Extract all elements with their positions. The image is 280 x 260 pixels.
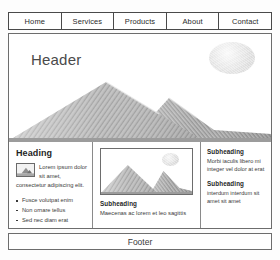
nav-item-contact[interactable]: Contact [219, 13, 271, 29]
list-item: Fusce volutpat enim [16, 196, 87, 206]
right-column: Subheading Morbi iaculis libero mi integ… [201, 142, 271, 229]
hero-banner: Header [9, 34, 271, 142]
content-frame: Header [8, 33, 272, 229]
mountain-range-illustration [9, 68, 271, 142]
card-subheading: Subheading [100, 200, 193, 207]
mountain-illustration [101, 162, 192, 194]
page-title: Header [31, 51, 81, 68]
three-column-layout: Heading Lorem ipsum dolor sit amet, cons… [9, 142, 271, 229]
image-thumbnail-icon [16, 163, 35, 177]
left-column: Heading Lorem ipsum dolor sit amet, cons… [9, 142, 93, 229]
page-footer: Footer [8, 233, 272, 250]
nav-item-services[interactable]: Services [62, 13, 115, 29]
list-item: Non ornare tellus [16, 206, 87, 216]
nav-item-home[interactable]: Home [9, 13, 62, 29]
feature-list: Fusce volutpat enim Non ornare tellus Se… [16, 196, 87, 225]
footer-label: Footer [128, 237, 153, 247]
right-text-1: Morbi iaculis libero mi integer vel dolo… [207, 157, 266, 174]
feature-card-image [100, 148, 193, 195]
right-subheading-1: Subheading [207, 148, 266, 155]
middle-column: Subheading Maecenas ac lorem et leo sagi… [93, 142, 201, 229]
main-navigation: Home Services Products About Contact [8, 12, 272, 30]
nav-item-about[interactable]: About [167, 13, 220, 29]
list-item: Sed nec diam erat [16, 216, 87, 226]
page-root: Home Services Products About Contact Hea… [0, 0, 280, 260]
section-heading: Heading [16, 148, 87, 158]
card-caption: Maecenas ac lorem et leo sagittis [100, 209, 193, 218]
right-text-2: interdum interdum sit amet sit amet [207, 189, 266, 206]
nav-item-products[interactable]: Products [114, 13, 167, 29]
right-subheading-2: Subheading [207, 180, 266, 187]
